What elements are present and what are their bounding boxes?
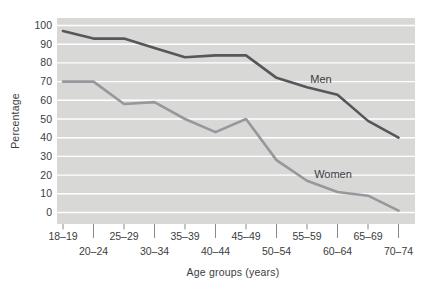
x-tick-label-12: 70–74 <box>384 245 413 257</box>
x-tick-label-3: 25–29 <box>109 230 138 242</box>
x-tick-label-11: 65–69 <box>353 230 382 242</box>
y-tick-label-30: 30 <box>40 150 52 162</box>
x-tick-label-6: 40–44 <box>201 245 230 257</box>
x-axis-title: Age groups (years) <box>187 266 280 278</box>
x-tick-label-5: 35–39 <box>170 230 199 242</box>
y-tick-label-100: 100 <box>34 19 52 31</box>
x-tick-label-2: 20–24 <box>79 245 108 257</box>
y-tick-label-20: 20 <box>40 169 52 181</box>
y-tick-label-50: 50 <box>40 113 52 125</box>
x-tick-label-1: 18–19 <box>48 230 77 242</box>
series-label-women: Women <box>314 168 352 180</box>
line-chart-figure: 010203040506070809010018–1920–2425–2930–… <box>0 0 438 285</box>
x-tick-label-10: 60–64 <box>323 245 352 257</box>
y-tick-label-60: 60 <box>40 94 52 106</box>
x-tick-label-4: 30–34 <box>140 245 169 257</box>
y-tick-label-70: 70 <box>40 75 52 87</box>
y-tick-label-90: 90 <box>40 38 52 50</box>
y-axis-title: Percentage <box>9 93 21 149</box>
y-tick-label-0: 0 <box>46 206 52 218</box>
x-tick-label-9: 55–59 <box>292 230 321 242</box>
x-tick-label-8: 50–54 <box>262 245 291 257</box>
y-tick-label-10: 10 <box>40 187 52 199</box>
series-label-men: Men <box>310 73 331 85</box>
chart-canvas: 010203040506070809010018–1920–2425–2930–… <box>0 0 438 285</box>
y-tick-label-40: 40 <box>40 131 52 143</box>
x-tick-label-7: 45–49 <box>231 230 260 242</box>
y-tick-label-80: 80 <box>40 56 52 68</box>
